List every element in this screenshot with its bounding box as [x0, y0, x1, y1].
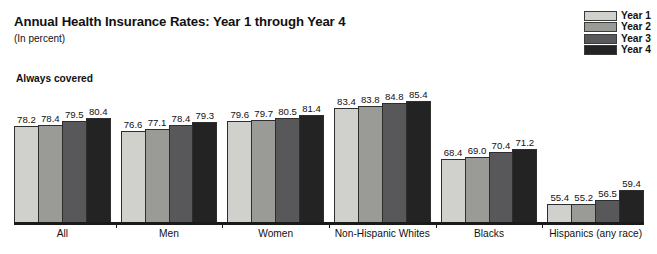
category-label: Hispanics (any race) — [549, 228, 642, 239]
page-title: Annual Health Insurance Rates: Year 1 th… — [14, 14, 345, 29]
bar: 80.5 — [275, 118, 300, 222]
bar: 85.4 — [406, 101, 431, 222]
legend-swatch-icon — [584, 45, 617, 55]
bar: 59.4 — [619, 190, 644, 222]
bar: 79.7 — [251, 120, 276, 222]
bar: 78.4 — [169, 125, 194, 222]
bar-value-label: 78.4 — [41, 114, 60, 124]
category-label: Non-Hispanic Whites — [335, 228, 430, 239]
plot-area: 78.278.479.580.476.677.178.479.379.679.7… — [14, 92, 644, 222]
bar-value-label: 77.1 — [148, 118, 167, 128]
bar: 69.0 — [465, 157, 490, 222]
axis-tick — [329, 222, 330, 228]
category-label: Women — [258, 228, 293, 239]
bar: 55.2 — [571, 204, 596, 222]
bar: 80.4 — [86, 118, 111, 222]
chart-figure: Annual Health Insurance Rates: Year 1 th… — [0, 0, 657, 254]
bar: 84.8 — [382, 103, 407, 222]
section-label: Always covered — [16, 73, 93, 84]
legend-item-4: Year 4 — [584, 45, 651, 57]
legend-label: Year 3 — [621, 34, 651, 44]
legend-label: Year 2 — [621, 22, 651, 32]
bar: 68.4 — [441, 159, 466, 222]
bar: 78.4 — [38, 125, 63, 222]
axis-tick — [436, 222, 437, 228]
bar-value-label: 80.4 — [89, 107, 108, 117]
category-label: All — [57, 228, 68, 239]
bar: 79.5 — [62, 121, 87, 222]
bar-group: 76.677.178.479.3 — [121, 92, 218, 222]
bar: 78.2 — [14, 126, 39, 222]
bar-value-label: 70.4 — [492, 141, 511, 151]
bar-value-label: 56.5 — [598, 189, 617, 199]
bar: 81.4 — [299, 115, 324, 222]
bar-value-label: 55.2 — [574, 193, 593, 203]
category-label: Blacks — [474, 228, 504, 239]
bar: 56.5 — [595, 200, 620, 222]
bar-group: 83.483.884.885.4 — [334, 92, 431, 222]
bar: 79.6 — [227, 121, 252, 222]
bar: 83.4 — [334, 108, 359, 222]
bar-group-bars: 79.679.780.581.4 — [227, 92, 324, 222]
bar-value-label: 83.4 — [337, 97, 356, 107]
legend-item-3: Year 3 — [584, 33, 651, 45]
bar: 55.4 — [547, 204, 572, 222]
bar-group: 55.455.256.559.4 — [547, 92, 644, 222]
bar-group: 68.469.070.471.2 — [441, 92, 538, 222]
axis-tick — [542, 222, 543, 228]
bar-group-bars: 55.455.256.559.4 — [547, 92, 644, 222]
bar: 83.8 — [358, 106, 383, 222]
bar: 70.4 — [489, 152, 514, 222]
chart-subtitle: (In percent) — [14, 33, 65, 44]
axis-tick — [116, 222, 117, 228]
bar-value-label: 71.2 — [516, 138, 535, 148]
bar: 79.3 — [192, 122, 217, 222]
bar-value-label: 69.0 — [468, 146, 487, 156]
bar-value-label: 80.5 — [278, 107, 297, 117]
bar-value-label: 81.4 — [302, 104, 321, 114]
legend-label: Year 1 — [621, 11, 651, 21]
bar-value-label: 55.4 — [550, 193, 569, 203]
bar-group-bars: 83.483.884.885.4 — [334, 92, 431, 222]
bar-value-label: 78.4 — [172, 114, 191, 124]
bar-group-bars: 68.469.070.471.2 — [441, 92, 538, 222]
legend-swatch-icon — [584, 11, 617, 21]
bar-value-label: 79.5 — [65, 110, 84, 120]
axis-tick — [222, 222, 223, 228]
bar-value-label: 78.2 — [17, 115, 36, 125]
category-label: Men — [159, 228, 179, 239]
legend-label: Year 4 — [621, 45, 651, 55]
bar-value-label: 79.3 — [196, 111, 215, 121]
bar-value-label: 79.6 — [230, 110, 249, 120]
bar-value-label: 83.8 — [361, 95, 380, 105]
bar-value-label: 59.4 — [622, 179, 641, 189]
bar-value-label: 76.6 — [124, 120, 143, 130]
bar-group-bars: 76.677.178.479.3 — [121, 92, 218, 222]
legend-swatch-icon — [584, 22, 617, 32]
bar-group: 78.278.479.580.4 — [14, 92, 111, 222]
bar: 77.1 — [145, 129, 170, 222]
bar-value-label: 84.8 — [385, 92, 404, 102]
legend-item-1: Year 1 — [584, 10, 651, 22]
bar-value-label: 79.7 — [254, 109, 273, 119]
bar-group: 79.679.780.581.4 — [227, 92, 324, 222]
chart-legend: Year 1Year 2Year 3Year 4 — [584, 10, 651, 56]
bar: 71.2 — [512, 149, 537, 222]
legend-item-2: Year 2 — [584, 22, 651, 34]
bar-value-label: 85.4 — [409, 90, 428, 100]
bar-value-label: 68.4 — [444, 148, 463, 158]
legend-swatch-icon — [584, 34, 617, 44]
bar: 76.6 — [121, 131, 146, 222]
bar-group-bars: 78.278.479.580.4 — [14, 92, 111, 222]
